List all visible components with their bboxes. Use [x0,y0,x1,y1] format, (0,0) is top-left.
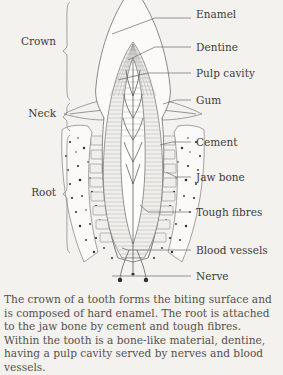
callout-label-enamel: Enamel [196,8,237,20]
figure-caption: The crown of a tooth forms the biting su… [0,291,283,375]
callout-label-jaw-bone: Jaw bone [195,171,245,183]
callout-label-pulp-cavity: Pulp cavity [196,67,255,79]
callout-label-blood-vessels: Blood vessels [196,244,268,256]
bracket-label-crown: Crown [21,35,56,47]
callout-label-nerve: Nerve [196,270,229,282]
bracket-label-root: Root [31,186,57,198]
callout-label-cement: Cement [196,136,238,148]
bracket-label-neck: Neck [28,107,56,119]
callout-label-dentine: Dentine [196,41,238,53]
tooth-diagram: CrownNeckRoot EnamelDentinePulp cavityGu… [0,0,283,291]
callout-label-tough-fibres: Tough fibres [196,206,262,218]
callout-label-gum: Gum [196,94,221,106]
